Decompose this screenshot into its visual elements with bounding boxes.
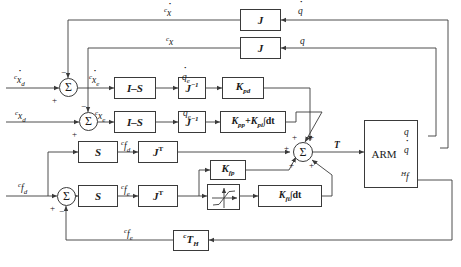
sign-velocity-minus: − [61,68,66,77]
saturation-icon [208,185,241,211]
sign-torque-2: + [309,133,314,142]
summer-velocity: Σ [59,78,78,97]
label-arm-output-velocity: q [404,146,409,156]
block-selection-force-error-label: S [95,191,101,202]
block-kpp-kpi-label: Kpp+Kpi∫dt [231,116,274,129]
label-desired-force-selected: cfd [121,140,130,154]
block-selection-force-desired-label: S [95,147,101,158]
block-selection-complement-velocity-label: I–S [127,83,143,94]
summer-force: Σ [57,187,76,206]
sign-torque-5: + [309,161,314,170]
label-velocity-command: cxd [14,74,25,88]
block-selection-complement-position-label: I–S [127,117,143,128]
label-joint-position-feedback: q [300,37,305,47]
block-selection-force-error: S [78,185,118,207]
block-kfi-label: Kfi∫dt [279,190,302,203]
label-cartesian-velocity-feedback: cx [164,7,171,19]
block-jacobian-transpose-error: JT [138,185,178,207]
block-kpp-kpi: Kpp+Kpi∫dt [220,111,286,133]
sign-torque-3: + [284,144,289,153]
summer-torque-symbol: Σ [300,145,307,160]
summer-position-symbol: Σ [85,114,92,129]
label-torque: T [334,141,340,151]
control-block-diagram: J J I–S J−1 Kpd I–S J−1 Kpp+Kpi∫dt S JT … [0,0,461,267]
sign-velocity-plus: + [52,96,57,105]
block-jacobian-transpose-desired-label: JT [153,146,163,158]
label-velocity-error: cxe [89,74,99,88]
summer-velocity-symbol: Σ [65,80,72,95]
block-selection-force-desired: S [78,141,118,163]
label-force-command: cfd [18,182,27,196]
block-arm-label: ARM [371,149,396,160]
block-selection-complement-velocity: I–S [114,77,156,99]
block-arm: ARM [364,120,418,188]
label-position-command: cxd [15,110,26,124]
block-jacobian-position-label: J [258,43,264,54]
sign-torque-4: + [289,161,294,170]
label-cartesian-position-feedback: cx [166,36,173,48]
block-jacobian-position: J [240,37,281,59]
label-sensed-force-feedback: cfe [124,228,133,242]
label-force-error-selected: cfe [121,184,130,198]
block-kpd: Kpd [222,77,264,99]
sign-force-minus: − [59,207,64,216]
block-jacobian-transpose-desired: JT [138,141,178,163]
block-jacobian-velocity-label: J [258,15,264,26]
block-kfi: Kfi∫dt [258,185,322,207]
block-kfp: Kfp [210,160,246,180]
saturation-block [207,184,240,210]
sign-position-minus: − [81,102,86,111]
block-kfp-label: Kfp [221,163,234,177]
block-jacobian-velocity: J [240,9,281,31]
sign-position-plus: + [72,130,77,139]
summer-torque: Σ [293,142,313,162]
block-force-transform-label: cTH [183,233,198,248]
block-kpd-label: Kpd [236,81,250,95]
summer-force-symbol: Σ [63,189,70,204]
block-selection-complement-position: I–S [114,111,156,133]
label-joint-position-error: qe [183,109,191,121]
label-position-error: cxe [95,110,105,124]
label-joint-velocity-error: qe [182,73,190,85]
label-joint-velocity-feedback: q [298,7,303,17]
label-arm-output-force: Hf [401,171,409,183]
sign-torque-1: + [292,133,297,142]
block-jacobian-transpose-error-label: JT [153,190,163,202]
block-force-transform: cTH [173,230,209,251]
sign-force-plus: + [50,204,55,213]
